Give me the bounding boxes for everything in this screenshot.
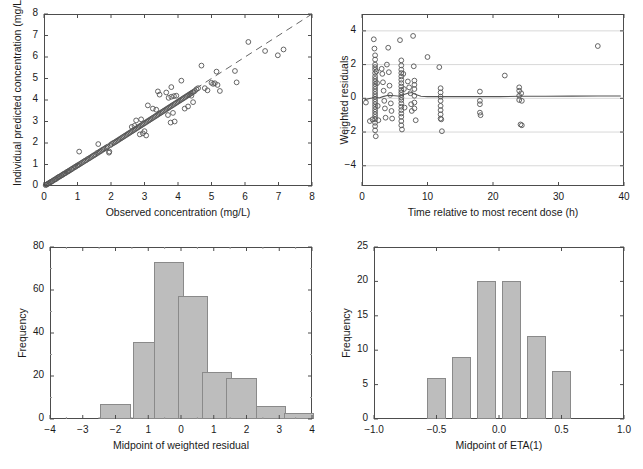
xtick-label: 10 bbox=[408, 191, 448, 202]
ytick-label: 4 bbox=[328, 24, 356, 35]
xaxis-title-panel4: Midpoint of ETA(1) bbox=[374, 439, 624, 451]
xtick-label: 40 bbox=[604, 191, 643, 202]
ytick-label: 2 bbox=[10, 136, 38, 147]
ytick-label: 80 bbox=[16, 240, 44, 251]
xtick-label: 0.0 bbox=[479, 424, 519, 435]
ytick-label: 40 bbox=[16, 326, 44, 337]
ytick-label: 0 bbox=[328, 91, 356, 102]
ytick-label: 20 bbox=[16, 369, 44, 380]
diagnostic-figure: Observed concentration (mg/L) Individual… bbox=[0, 0, 643, 469]
tick-layer bbox=[362, 14, 626, 188]
ytick-label: −2 bbox=[328, 125, 356, 136]
ytick-label: 3 bbox=[10, 115, 38, 126]
ytick-label: 4 bbox=[10, 93, 38, 104]
xtick-label: −0.5 bbox=[417, 424, 457, 435]
xtick-label: −1.0 bbox=[354, 424, 394, 435]
xtick-label: 20 bbox=[473, 191, 513, 202]
ytick-label: 15 bbox=[340, 309, 368, 320]
yaxis-title-panel4: Frequency bbox=[340, 247, 352, 419]
ytick-label: 7 bbox=[10, 29, 38, 40]
panel-weighted-residual-histogram: Midpoint of weighted residual Frequency … bbox=[0, 235, 330, 469]
panel-eta1-histogram: Midpoint of ETA(1) Frequency −1.0−0.50.0… bbox=[330, 235, 643, 469]
tick-layer bbox=[44, 14, 314, 188]
xtick-label: 8 bbox=[292, 191, 332, 202]
ytick-label: 20 bbox=[340, 274, 368, 285]
ytick-label: 0 bbox=[10, 179, 38, 190]
ytick-label: 5 bbox=[10, 72, 38, 83]
tick-layer bbox=[50, 247, 314, 421]
xtick-label: 4 bbox=[292, 424, 332, 435]
tick-layer bbox=[374, 247, 626, 421]
ytick-label: −4 bbox=[328, 159, 356, 170]
ytick-label: 0 bbox=[16, 412, 44, 423]
xtick-label: 0 bbox=[342, 191, 382, 202]
ytick-label: 60 bbox=[16, 283, 44, 294]
ytick-label: 0 bbox=[340, 412, 368, 423]
xtick-label: 1.0 bbox=[604, 424, 643, 435]
ytick-label: 5 bbox=[340, 378, 368, 389]
xaxis-title-panel1: Observed concentration (mg/L) bbox=[44, 206, 312, 218]
ytick-label: 2 bbox=[328, 58, 356, 69]
ytick-label: 10 bbox=[340, 343, 368, 354]
ytick-label: 25 bbox=[340, 240, 368, 251]
ytick-label: 1 bbox=[10, 158, 38, 169]
panel-weighted-residuals: Time relative to most recent dose (h) We… bbox=[330, 0, 643, 235]
ytick-label: 8 bbox=[10, 7, 38, 18]
xaxis-title-panel3: Midpoint of weighted residual bbox=[50, 439, 312, 451]
xtick-label: 30 bbox=[539, 191, 579, 202]
xtick-label: 0.5 bbox=[542, 424, 582, 435]
ytick-label: 6 bbox=[10, 50, 38, 61]
xaxis-title-panel2: Time relative to most recent dose (h) bbox=[362, 206, 624, 218]
panel-goodness-of-fit: Observed concentration (mg/L) Individual… bbox=[0, 0, 330, 235]
